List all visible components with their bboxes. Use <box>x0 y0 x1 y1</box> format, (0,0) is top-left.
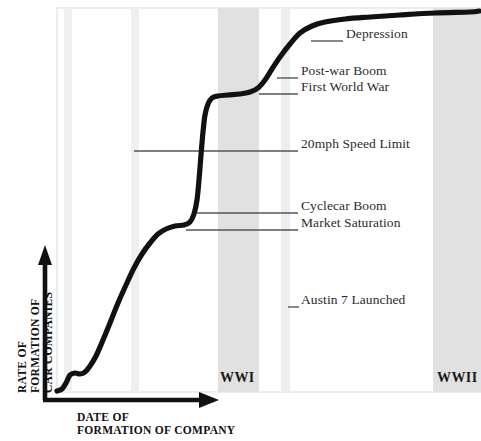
y-axis-title-line-1: RATE OF <box>16 292 29 393</box>
y-axis-title-line-3: CAR COMPANIES <box>42 292 55 393</box>
narrow-band-2 <box>131 8 139 392</box>
annotation-label-post-war-boom: Post-war Boom <box>301 63 387 79</box>
annotation-label-cyclecar-boom: Cyclecar Boom <box>301 198 387 214</box>
annotation-label-market-saturation: Market Saturation <box>301 215 401 231</box>
x-axis-title-line-1: DATE OF <box>77 411 235 424</box>
x-axis-title: DATE OF FORMATION OF COMPANY <box>77 411 235 437</box>
y-axis-title-line-2: FORMATION OF <box>29 292 42 393</box>
annotation-label-20mph-speed-limit: 20mph Speed Limit <box>301 136 410 152</box>
y-axis-arrowhead <box>38 245 52 265</box>
annotation-label-austin-7-launched: Austin 7 Launched <box>301 292 405 308</box>
y-axis-title: RATE OF FORMATION OF CAR COMPANIES <box>16 292 55 393</box>
x-axis-title-line-2: FORMATION OF COMPANY <box>77 424 235 437</box>
wwi-band <box>218 8 259 392</box>
narrow-band-1 <box>64 8 72 392</box>
x-axis-arrowhead <box>199 392 219 408</box>
chart-figure: Depression Post-war Boom First World War… <box>0 0 481 441</box>
wwii-band <box>433 8 481 392</box>
annotation-label-first-world-war: First World War <box>301 79 389 95</box>
narrow-band-3 <box>281 8 290 392</box>
band-label-wwii: WWII <box>437 370 478 386</box>
plot-area-background <box>57 8 481 392</box>
band-label-wwi: WWI <box>220 370 255 386</box>
annotation-label-depression: Depression <box>346 26 408 42</box>
